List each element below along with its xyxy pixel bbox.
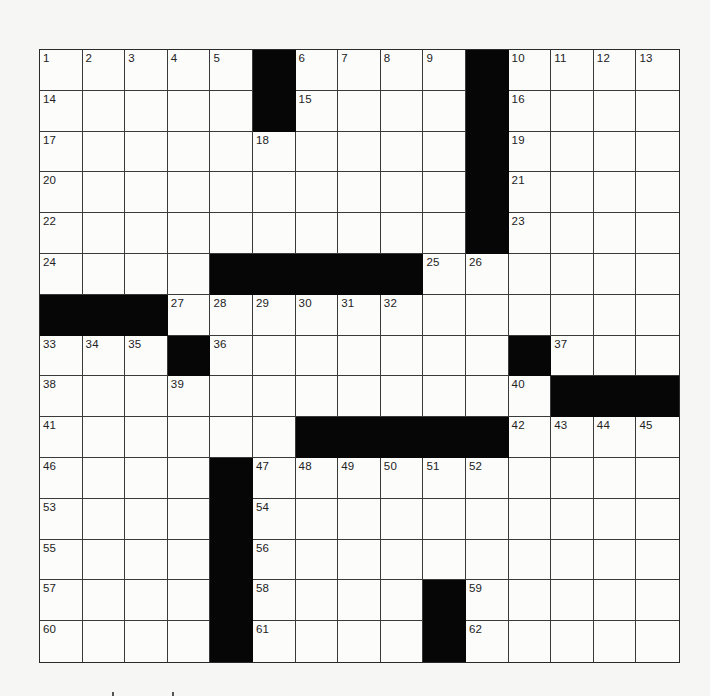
grid-cell[interactable] xyxy=(509,580,552,621)
grid-cell[interactable]: 3 xyxy=(125,50,168,91)
grid-cell[interactable] xyxy=(125,458,168,499)
grid-cell[interactable] xyxy=(83,580,126,621)
grid-cell[interactable]: 41 xyxy=(40,417,83,458)
grid-cell[interactable]: 59 xyxy=(466,580,509,621)
grid-cell[interactable]: 27 xyxy=(168,295,211,336)
grid-cell[interactable] xyxy=(594,213,637,254)
grid-cell[interactable] xyxy=(296,132,339,173)
grid-cell[interactable]: 9 xyxy=(423,50,466,91)
grid-cell[interactable]: 35 xyxy=(125,336,168,377)
grid-cell[interactable] xyxy=(636,295,679,336)
grid-cell[interactable] xyxy=(594,254,637,295)
grid-cell[interactable]: 39 xyxy=(168,376,211,417)
grid-cell[interactable] xyxy=(83,458,126,499)
grid-cell[interactable]: 14 xyxy=(40,91,83,132)
grid-cell[interactable]: 21 xyxy=(509,172,552,213)
grid-cell[interactable]: 6 xyxy=(296,50,339,91)
grid-cell[interactable] xyxy=(381,376,424,417)
grid-cell[interactable]: 47 xyxy=(253,458,296,499)
grid-cell[interactable] xyxy=(296,376,339,417)
grid-cell[interactable]: 48 xyxy=(296,458,339,499)
grid-cell[interactable] xyxy=(125,376,168,417)
grid-cell[interactable] xyxy=(509,621,552,662)
grid-cell[interactable] xyxy=(466,499,509,540)
grid-cell[interactable]: 8 xyxy=(381,50,424,91)
grid-cell[interactable] xyxy=(168,417,211,458)
grid-cell[interactable] xyxy=(551,132,594,173)
grid-cell[interactable] xyxy=(509,458,552,499)
grid-cell[interactable] xyxy=(296,540,339,581)
grid-cell[interactable] xyxy=(168,172,211,213)
grid-cell[interactable] xyxy=(551,499,594,540)
grid-cell[interactable]: 18 xyxy=(253,132,296,173)
grid-cell[interactable]: 40 xyxy=(509,376,552,417)
grid-cell[interactable] xyxy=(125,540,168,581)
grid-cell[interactable] xyxy=(423,540,466,581)
grid-cell[interactable] xyxy=(168,458,211,499)
grid-cell[interactable]: 42 xyxy=(509,417,552,458)
grid-cell[interactable] xyxy=(636,580,679,621)
grid-cell[interactable] xyxy=(381,132,424,173)
grid-cell[interactable] xyxy=(125,172,168,213)
grid-cell[interactable] xyxy=(423,376,466,417)
grid-cell[interactable] xyxy=(551,540,594,581)
grid-cell[interactable]: 58 xyxy=(253,580,296,621)
grid-cell[interactable] xyxy=(210,91,253,132)
grid-cell[interactable]: 32 xyxy=(381,295,424,336)
grid-cell[interactable] xyxy=(338,499,381,540)
grid-cell[interactable]: 22 xyxy=(40,213,83,254)
grid-cell[interactable] xyxy=(210,213,253,254)
grid-cell[interactable]: 1 xyxy=(40,50,83,91)
grid-cell[interactable] xyxy=(551,458,594,499)
grid-cell[interactable] xyxy=(594,132,637,173)
grid-cell[interactable]: 4 xyxy=(168,50,211,91)
grid-cell[interactable]: 20 xyxy=(40,172,83,213)
grid-cell[interactable]: 11 xyxy=(551,50,594,91)
grid-cell[interactable] xyxy=(423,91,466,132)
grid-cell[interactable]: 51 xyxy=(423,458,466,499)
grid-cell[interactable]: 30 xyxy=(296,295,339,336)
grid-cell[interactable] xyxy=(296,172,339,213)
grid-cell[interactable] xyxy=(381,499,424,540)
grid-cell[interactable] xyxy=(296,499,339,540)
grid-cell[interactable]: 24 xyxy=(40,254,83,295)
grid-cell[interactable]: 17 xyxy=(40,132,83,173)
grid-cell[interactable] xyxy=(423,132,466,173)
grid-cell[interactable] xyxy=(636,499,679,540)
grid-cell[interactable] xyxy=(551,295,594,336)
grid-cell[interactable] xyxy=(636,172,679,213)
grid-cell[interactable] xyxy=(509,295,552,336)
grid-cell[interactable] xyxy=(381,540,424,581)
grid-cell[interactable] xyxy=(83,213,126,254)
grid-cell[interactable]: 13 xyxy=(636,50,679,91)
grid-cell[interactable] xyxy=(636,132,679,173)
grid-cell[interactable] xyxy=(509,540,552,581)
grid-cell[interactable] xyxy=(636,91,679,132)
grid-cell[interactable] xyxy=(509,499,552,540)
grid-cell[interactable] xyxy=(636,621,679,662)
grid-cell[interactable] xyxy=(253,417,296,458)
grid-cell[interactable] xyxy=(551,91,594,132)
grid-cell[interactable] xyxy=(83,132,126,173)
grid-cell[interactable] xyxy=(125,417,168,458)
grid-cell[interactable]: 53 xyxy=(40,499,83,540)
grid-cell[interactable] xyxy=(423,499,466,540)
grid-cell[interactable] xyxy=(210,132,253,173)
grid-cell[interactable] xyxy=(594,172,637,213)
grid-cell[interactable] xyxy=(296,580,339,621)
grid-cell[interactable]: 55 xyxy=(40,540,83,581)
grid-cell[interactable] xyxy=(594,580,637,621)
grid-cell[interactable] xyxy=(168,254,211,295)
grid-cell[interactable] xyxy=(381,336,424,377)
grid-cell[interactable]: 61 xyxy=(253,621,296,662)
grid-cell[interactable] xyxy=(253,336,296,377)
grid-cell[interactable] xyxy=(338,336,381,377)
grid-cell[interactable] xyxy=(594,91,637,132)
grid-cell[interactable] xyxy=(83,254,126,295)
grid-cell[interactable] xyxy=(83,376,126,417)
grid-cell[interactable] xyxy=(423,336,466,377)
grid-cell[interactable] xyxy=(636,540,679,581)
grid-cell[interactable] xyxy=(381,172,424,213)
grid-cell[interactable] xyxy=(338,213,381,254)
grid-cell[interactable]: 37 xyxy=(551,336,594,377)
